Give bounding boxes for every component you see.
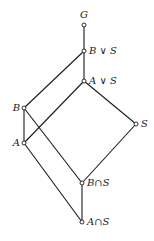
node-label-A: A	[12, 137, 20, 148]
node-BnS	[80, 181, 84, 185]
edge-B-BnS	[24, 108, 82, 183]
node-label-S: S	[141, 118, 148, 129]
node-label-AvS: A ∨ S	[88, 75, 117, 86]
node-label-BvS: B ∨ S	[88, 45, 117, 56]
node-G	[82, 23, 86, 27]
node-label-G: G	[80, 9, 88, 20]
node-AvS	[82, 79, 86, 83]
node-BvS	[82, 49, 86, 53]
nodes-group	[22, 23, 138, 224]
node-label-B: B	[12, 102, 20, 113]
edge-AvS-A	[24, 81, 84, 143]
edges-group	[24, 25, 136, 222]
node-AnS	[80, 220, 84, 224]
lattice-diagram: GB ∨ SA ∨ SBSAB∩SA∩S	[0, 0, 154, 241]
edge-BvS-B	[24, 51, 84, 108]
node-B	[22, 106, 26, 110]
edge-S-BnS	[82, 124, 136, 183]
node-S	[134, 122, 138, 126]
lattice-diagram-canvas: GB ∨ SA ∨ SBSAB∩SA∩S	[0, 0, 154, 241]
node-label-AnS: A∩S	[86, 216, 110, 227]
node-label-BnS: B∩S	[86, 177, 110, 188]
edge-AvS-S	[84, 81, 136, 124]
edge-A-AnS	[24, 143, 82, 222]
node-A	[22, 141, 26, 145]
